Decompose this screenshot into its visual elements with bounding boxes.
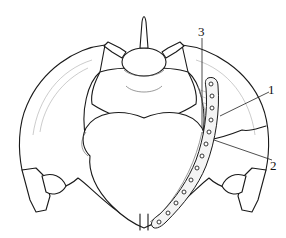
pelvic-inlet (83, 113, 205, 228)
left-transverse-process (104, 42, 126, 58)
spinous-process (140, 17, 148, 48)
label-3: 3 (198, 24, 205, 39)
label-2: 2 (270, 158, 277, 173)
pelvis-diagram: 3 1 2 (0, 0, 286, 238)
right-transverse-process (162, 42, 184, 58)
vertebral-body (122, 48, 166, 76)
label-1: 1 (268, 82, 275, 97)
